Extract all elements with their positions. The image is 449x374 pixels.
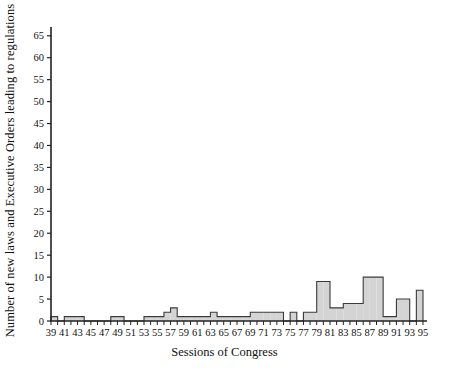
y-tick-label-20: 20 [34, 228, 45, 239]
x-tick-label-73: 73 [272, 327, 283, 338]
y-tick-label-15: 15 [34, 250, 45, 261]
x-tick-label-75: 75 [285, 327, 296, 338]
y-tick-label-10: 10 [34, 272, 45, 283]
x-tick-label-85: 85 [351, 327, 362, 338]
y-tick-label-65: 65 [34, 30, 45, 41]
x-tick-label-65: 65 [218, 327, 229, 338]
bar-57 [171, 308, 178, 321]
bar-73 [277, 312, 284, 321]
bar-79 [317, 282, 324, 321]
y-tick-label-55: 55 [34, 74, 45, 85]
y-tick-label-60: 60 [34, 52, 45, 63]
bar-85 [357, 303, 364, 321]
x-tick-label-91: 91 [391, 327, 402, 338]
y-tick-label-35: 35 [34, 162, 45, 173]
x-tick-label-51: 51 [125, 327, 136, 338]
bar-81 [330, 308, 337, 321]
x-tick-label-63: 63 [205, 327, 216, 338]
y-tick-label-40: 40 [34, 140, 45, 151]
x-tick-label-89: 89 [378, 327, 389, 338]
bar-70 [257, 312, 264, 321]
x-tick-label-59: 59 [179, 327, 190, 338]
x-tick-label-71: 71 [258, 327, 269, 338]
x-tick-label-47: 47 [99, 327, 110, 338]
bar-94 [416, 290, 423, 321]
bar-72 [270, 312, 277, 321]
bar-71 [264, 312, 271, 321]
x-tick-label-81: 81 [325, 327, 336, 338]
x-tick-label-67: 67 [232, 327, 243, 338]
x-tick-label-61: 61 [192, 327, 203, 338]
bar-84 [350, 303, 357, 321]
x-tick-label-79: 79 [311, 327, 322, 338]
chart-figure: Number of new laws and Executive Orders … [0, 0, 449, 374]
bar-77 [303, 312, 310, 321]
bar-83 [343, 303, 350, 321]
x-tick-label-41: 41 [59, 327, 70, 338]
bar-82 [337, 308, 344, 321]
x-tick-label-43: 43 [72, 327, 83, 338]
x-tick-label-57: 57 [165, 327, 176, 338]
bar-87 [370, 277, 377, 321]
y-tick-label-50: 50 [34, 96, 45, 107]
y-tick-label-5: 5 [39, 294, 44, 305]
bar-80 [323, 282, 330, 321]
x-tick-label-77: 77 [298, 327, 309, 338]
x-tick-label-45: 45 [86, 327, 97, 338]
y-tick-label-25: 25 [34, 206, 45, 217]
x-tick-label-55: 55 [152, 327, 163, 338]
bar-91 [396, 299, 403, 321]
x-tick-label-39: 39 [46, 327, 57, 338]
x-tick-label-83: 83 [338, 327, 349, 338]
bar-56 [164, 312, 171, 321]
bar-88 [377, 277, 384, 321]
x-axis-title-text: Sessions of Congress [171, 345, 277, 359]
y-tick-label-0: 0 [39, 316, 44, 327]
bar-86 [363, 277, 370, 321]
x-tick-label-87: 87 [365, 327, 376, 338]
x-tick-label-69: 69 [245, 327, 256, 338]
bar-92 [403, 299, 410, 321]
x-tick-label-49: 49 [112, 327, 123, 338]
x-tick-label-53: 53 [139, 327, 150, 338]
x-tick-label-95: 95 [418, 327, 429, 338]
x-tick-label-93: 93 [404, 327, 415, 338]
x-axis-title: Sessions of Congress [0, 345, 449, 360]
y-tick-label-45: 45 [34, 118, 45, 129]
y-tick-label-30: 30 [34, 184, 45, 195]
bar-69 [250, 312, 257, 321]
chart-plot-area: 0510152025303540455055606539414345474951… [0, 0, 449, 374]
bar-75 [290, 312, 297, 321]
bar-63 [210, 312, 217, 321]
bar-78 [310, 312, 317, 321]
